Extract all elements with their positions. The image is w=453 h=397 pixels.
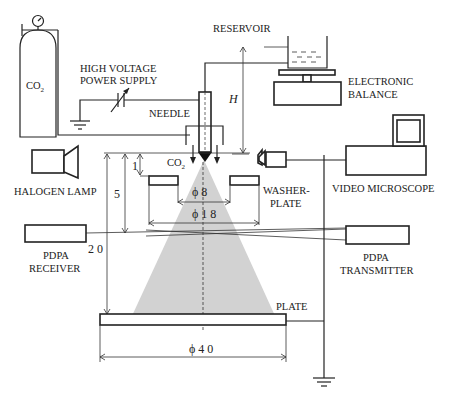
height-label: H bbox=[228, 92, 239, 106]
dim-phi40-label: ϕ 4 0 bbox=[189, 342, 213, 356]
co2-cylinder: CO2 bbox=[20, 16, 58, 138]
dim-phi8-label: ϕ 8 bbox=[192, 185, 207, 199]
apparatus-diagram: CO2 HIGH VOLTAGE POWER SUPPLY RESERVOIR … bbox=[0, 0, 453, 397]
high-voltage-label-1: HIGH VOLTAGE bbox=[80, 63, 156, 74]
needle-label: NEEDLE bbox=[149, 108, 190, 119]
ground-icon-left bbox=[70, 121, 90, 129]
dim-phi18-label: ϕ 1 8 bbox=[192, 207, 216, 221]
co2-cylinder-label: CO2 bbox=[26, 80, 45, 94]
dim-5-label: 5 bbox=[114, 187, 120, 201]
halogen-lamp-label: HALOGEN LAMP bbox=[14, 186, 97, 197]
balance-label-1: ELECTRONIC bbox=[348, 76, 413, 87]
dim-20-label: 2 0 bbox=[88, 242, 103, 256]
balance-label-2: BALANCE bbox=[348, 89, 398, 100]
plate-label: PLATE bbox=[276, 301, 308, 312]
high-voltage-label-2: POWER SUPPLY bbox=[80, 75, 158, 86]
pdpa-receiver-label-1: PDPA bbox=[43, 250, 69, 261]
video-microscope-label: VIDEO MICROSCOPE bbox=[332, 183, 434, 194]
halogen-lamp bbox=[32, 146, 78, 178]
co2-flow-label: CO2 bbox=[167, 157, 186, 171]
washer-plate-label-2: PLATE bbox=[270, 198, 302, 209]
pdpa-transmitter-label-2: TRANSMITTER bbox=[340, 265, 414, 276]
dim-20-arrow bbox=[104, 154, 110, 314]
dim-5-arrow bbox=[122, 154, 128, 233]
pdpa-receiver bbox=[25, 225, 86, 242]
dim-1-arrow bbox=[137, 154, 150, 176]
ground-icon-right bbox=[313, 378, 335, 386]
pdpa-transmitter bbox=[346, 226, 409, 244]
electronic-balance bbox=[274, 70, 341, 105]
washer-plate-label-1: WASHER- bbox=[263, 185, 310, 196]
pdpa-receiver-label-2: RECEIVER bbox=[29, 263, 80, 274]
reservoir-label: RESERVOIR bbox=[213, 23, 271, 34]
dim-1-label: 1 bbox=[132, 159, 138, 173]
pdpa-transmitter-label-1: PDPA bbox=[363, 252, 389, 263]
collector-plate bbox=[100, 314, 286, 325]
video-microscope bbox=[258, 115, 426, 175]
